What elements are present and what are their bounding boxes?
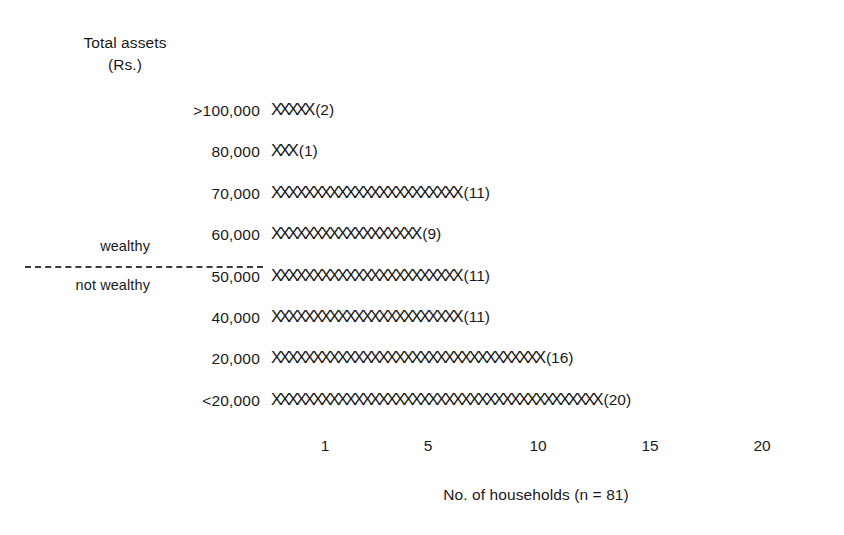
plot-row: 70,000XXXXXXXXXXXXXXXXXXXXXXX(11) (0, 183, 844, 224)
x-axis-ticks: 15101520 (0, 437, 844, 459)
row-mark-glyphs: XXXXX (271, 100, 312, 119)
row-category-label: 40,000 (60, 309, 260, 327)
row-count-label: (11) (464, 308, 490, 325)
row-marks: XXXXXXXXXXXXXXXXXXXXXXX(11) (271, 266, 490, 286)
plot-row: 50,000XXXXXXXXXXXXXXXXXXXXXXX(11) (0, 266, 844, 307)
y-axis-title-line-2: (Rs.) (20, 54, 230, 76)
x-axis-tick-label: 1 (305, 437, 345, 455)
row-count-label: (16) (546, 349, 574, 366)
row-marks: XXXXXXXXXXXXXXXXXXXXXXXXXXXXXXXXX(16) (271, 348, 573, 368)
row-count-label: (9) (422, 225, 441, 242)
row-marks: XXXXXXXXXXXXXXXXXXXXXXX(11) (271, 307, 490, 327)
row-category-label: 20,000 (60, 350, 260, 368)
plot-rows: >100,000XXXXX(2)80,000XXX(1)70,000XXXXXX… (0, 100, 844, 431)
plot-row: <20,000XXXXXXXXXXXXXXXXXXXXXXXXXXXXXXXXX… (0, 390, 844, 431)
x-axis-tick-label: 20 (742, 437, 782, 455)
row-mark-glyphs: XXXXXXXXXXXXXXXXXXXXXXX (271, 183, 461, 202)
row-marks: XXXXXXXXXXXXXXXXXXXXXXXXXXXXXXXXXXXXXXXX… (271, 390, 631, 410)
plot-row: 60,000XXXXXXXXXXXXXXXXXX(9) (0, 224, 844, 265)
y-axis-title-line-1: Total assets (83, 34, 166, 51)
row-count-label: (2) (315, 101, 334, 118)
row-category-label: 50,000 (60, 268, 260, 286)
row-count-label: (20) (604, 391, 632, 408)
row-marks: XXXXXXXXXXXXXXXXXXXXXXX(11) (271, 183, 490, 203)
row-mark-glyphs: XXXXXXXXXXXXXXXXXXXXXXX (271, 266, 461, 285)
y-axis-title: Total assets (Rs.) (20, 32, 230, 76)
row-marks: XXXXXXXXXXXXXXXXXX(9) (271, 224, 441, 244)
row-marks: XXXXX(2) (271, 100, 334, 120)
x-axis-tick-label: 10 (518, 437, 558, 455)
row-category-label: >100,000 (60, 102, 260, 120)
row-category-label: 60,000 (60, 226, 260, 244)
row-mark-glyphs: XXXXXXXXXXXXXXXXXXXXXXXXXXXXXXXXXXXXXXXX (271, 390, 601, 409)
x-axis-tick-label: 15 (630, 437, 670, 455)
row-count-label: (11) (464, 184, 490, 201)
row-mark-glyphs: XXXXXXXXXXXXXXXXXXXXXXX (271, 307, 461, 326)
row-category-label: <20,000 (60, 392, 260, 410)
plot-row: 80,000XXX(1) (0, 141, 844, 182)
x-axis-tick-label: 5 (408, 437, 448, 455)
row-count-label: (1) (299, 142, 318, 159)
x-axis-title: No. of households (n = 81) (271, 486, 801, 504)
row-marks: XXX(1) (271, 141, 318, 161)
row-mark-glyphs: XXXXXXXXXXXXXXXXXX (271, 224, 419, 243)
dot-plot-chart: Total assets (Rs.) wealthy not wealthy >… (0, 0, 844, 535)
row-category-label: 70,000 (60, 185, 260, 203)
row-mark-glyphs: XXX (271, 141, 296, 160)
plot-row: 20,000XXXXXXXXXXXXXXXXXXXXXXXXXXXXXXXXX(… (0, 348, 844, 389)
row-category-label: 80,000 (60, 143, 260, 161)
plot-row: 40,000XXXXXXXXXXXXXXXXXXXXXXX(11) (0, 307, 844, 348)
row-count-label: (11) (464, 267, 490, 284)
row-mark-glyphs: XXXXXXXXXXXXXXXXXXXXXXXXXXXXXXXXX (271, 348, 543, 367)
plot-row: >100,000XXXXX(2) (0, 100, 844, 141)
